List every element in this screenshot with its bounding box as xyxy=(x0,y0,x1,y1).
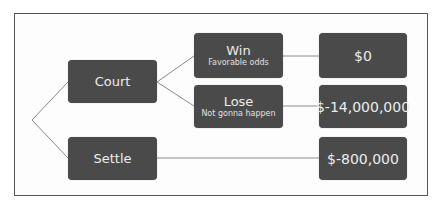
win-result-value: $0 xyxy=(354,49,372,63)
node-win-subtitle: Favorable odds xyxy=(208,58,269,68)
node-lose-label: Lose xyxy=(224,95,254,109)
node-win-label: Win xyxy=(226,44,250,58)
node-win: Win Favorable odds xyxy=(194,33,283,78)
settle-result-value: $-800,000 xyxy=(327,152,399,166)
node-win-result: $0 xyxy=(319,33,407,78)
node-lose: Lose Not gonna happen xyxy=(194,85,283,128)
node-court: Court xyxy=(68,60,157,103)
node-settle-result: $-800,000 xyxy=(319,137,407,180)
lose-result-value: $-14,000,000 xyxy=(316,100,410,114)
node-settle: Settle xyxy=(68,137,157,180)
node-lose-result: $-14,000,000 xyxy=(319,85,407,128)
node-court-label: Court xyxy=(95,75,131,89)
node-lose-subtitle: Not gonna happen xyxy=(201,109,275,119)
node-settle-label: Settle xyxy=(93,152,131,166)
